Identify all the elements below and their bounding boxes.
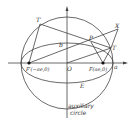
label-P: P [88, 34, 94, 41]
ellipse-auxiliary-circle-diagram: T′ X P T b O F′(−ae,0) F(ae,0) a E auxil… [0, 0, 136, 129]
focus-Fprime-point [27, 61, 30, 64]
label-a: a [114, 63, 118, 70]
label-T: T [112, 44, 117, 51]
label-Fprime: F′(−ae,0) [25, 66, 49, 72]
focus-F-point [101, 61, 104, 64]
y-axis-arrow-icon [66, 6, 69, 11]
line-Tprime-Fprime [29, 24, 40, 63]
label-X: X [114, 22, 120, 29]
x-axis-arrow-icon [123, 62, 128, 65]
label-F: F(ae,0) [88, 66, 107, 72]
label-b: b [59, 41, 63, 48]
label-O: O [67, 65, 72, 72]
label-E: E [79, 82, 85, 89]
label-circle: circle [70, 109, 86, 116]
label-Tprime: T′ [36, 16, 42, 23]
